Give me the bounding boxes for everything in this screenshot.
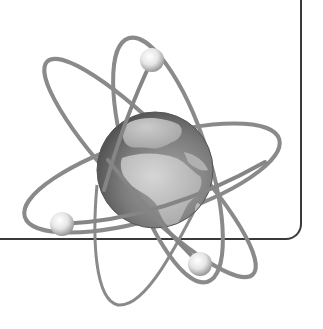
atom-globe-illustration <box>0 0 323 329</box>
electron-bottom <box>188 252 212 276</box>
electron-left <box>50 212 74 236</box>
electron-top <box>140 48 164 72</box>
